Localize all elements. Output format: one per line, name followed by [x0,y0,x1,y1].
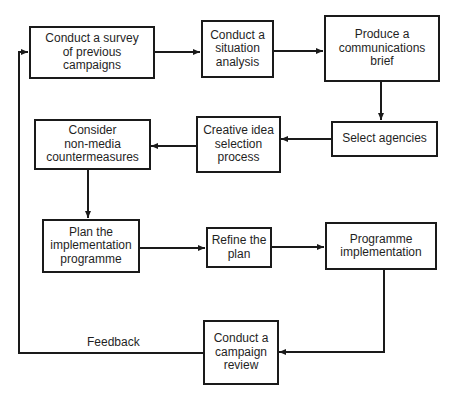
flowchart-canvas: Conduct a survey of previous campaigns C… [0,0,450,400]
node-creative-idea-selection: Creative idea selection process [196,116,281,173]
node-situation-analysis: Conduct a situation analysis [201,20,274,78]
node-non-media-countermeasures: Consider non-media countermeasures [34,119,151,170]
node-communications-brief: Produce a communications brief [324,15,440,82]
feedback-label: Feedback [87,335,140,349]
node-select-agencies: Select agencies [331,121,438,157]
node-programme-implementation: Programme implementation [325,222,437,270]
node-survey-previous-campaigns: Conduct a survey of previous campaigns [29,26,155,79]
arrow-implementation-to-review [279,269,384,352]
arrow-feedback-loop [19,52,203,353]
node-refine-plan: Refine the plan [206,227,272,268]
node-campaign-review: Conduct a campaign review [203,320,279,385]
node-plan-implementation: Plan the implementation programme [42,219,140,273]
